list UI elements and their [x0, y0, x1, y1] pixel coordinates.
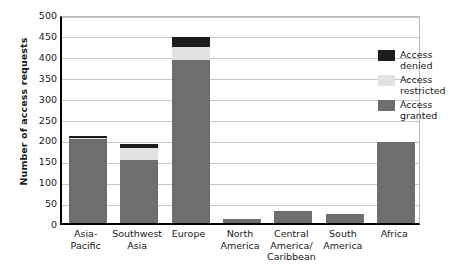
x-axis-tick-label-line: Southwest — [111, 228, 162, 240]
x-axis-tick-label: NorthAmerica — [214, 228, 265, 251]
x-axis-tick-label: SouthAmerica — [317, 228, 368, 251]
y-axis-tick-label: 150 — [5, 157, 57, 167]
plot-area: AccessdeniedAccessrestrictedAccessgrante… — [60, 16, 420, 225]
legend-item-granted: Accessgranted — [378, 99, 450, 121]
bar-segment-granted — [69, 139, 107, 223]
x-axis-tick-label: SouthwestAsia — [111, 228, 162, 251]
bar-segment-granted — [172, 60, 210, 223]
x-axis-tick-label: Africa — [369, 228, 420, 240]
x-axis-tick-label-line: South — [317, 228, 368, 240]
x-axis-tick-label-line: Asia- — [60, 228, 111, 240]
bar-stack — [223, 219, 261, 223]
legend-swatch-restricted — [378, 75, 395, 86]
legend: AccessdeniedAccessrestrictedAccessgrante… — [378, 49, 450, 124]
legend-item-restricted: Accessrestricted — [378, 74, 450, 96]
bar-segment-restricted — [172, 47, 210, 60]
y-axis-tick-label: 50 — [5, 199, 57, 209]
legend-label-line: Access — [400, 49, 433, 60]
bar-stack — [172, 37, 210, 223]
legend-label: Accessgranted — [400, 99, 437, 121]
bar-segment-granted — [120, 160, 158, 223]
bar-segment-granted — [377, 142, 415, 223]
legend-label-line: Access — [400, 99, 437, 110]
bar-stack — [69, 136, 107, 223]
bar-segment-granted — [223, 219, 261, 223]
legend-label-line: denied — [400, 60, 433, 71]
y-axis-tick-label: 100 — [5, 178, 57, 188]
bar-stack — [377, 142, 415, 223]
legend-label: Accessrestricted — [400, 74, 446, 96]
legend-label-line: restricted — [400, 85, 446, 96]
y-axis-tick-label: 500 — [5, 11, 57, 21]
x-axis-tick-label-line: Europe — [163, 228, 214, 240]
bar-stack — [274, 211, 312, 223]
bar-segment-denied — [172, 37, 210, 47]
x-axis-tick-label-line: Pacific — [60, 240, 111, 252]
y-axis-tick-label: 300 — [5, 95, 57, 105]
x-axis-tick-label-line: Caribbean — [266, 251, 317, 263]
bar-stack — [326, 214, 364, 223]
legend-swatch-granted — [378, 100, 395, 111]
y-axis-tick-label: 400 — [5, 53, 57, 63]
x-axis-tick-label: Asia-Pacific — [60, 228, 111, 251]
legend-label: Accessdenied — [400, 49, 433, 71]
x-axis-tick-label-line: Africa — [369, 228, 420, 240]
y-axis-tick-label: 250 — [5, 116, 57, 126]
x-axis-tick-label-line: North — [214, 228, 265, 240]
bar-series-container — [62, 17, 419, 223]
legend-label-line: Access — [400, 74, 446, 85]
x-axis-tick-label-line: Asia — [111, 240, 162, 252]
y-axis-tick-label: 200 — [5, 136, 57, 146]
x-axis-tick-label: CentralAmerica/Caribbean — [266, 228, 317, 263]
x-axis-tick-label-line: America/ — [266, 240, 317, 252]
legend-swatch-denied — [378, 50, 395, 61]
x-axis-tick-label-line: Central — [266, 228, 317, 240]
y-axis-tick-label: 350 — [5, 74, 57, 84]
legend-label-line: granted — [400, 110, 437, 121]
x-axis-tick-label-line: America — [317, 240, 368, 252]
bar-stack — [120, 144, 158, 223]
bar-segment-restricted — [120, 148, 158, 161]
x-axis-tick-label-line: America — [214, 240, 265, 252]
y-axis-tick-label: 450 — [5, 32, 57, 42]
legend-item-denied: Accessdenied — [378, 49, 450, 71]
bar-segment-granted — [274, 211, 312, 223]
y-axis-tick-label: 0 — [5, 220, 57, 230]
x-axis-tick-label: Europe — [163, 228, 214, 240]
bar-segment-granted — [326, 214, 364, 223]
